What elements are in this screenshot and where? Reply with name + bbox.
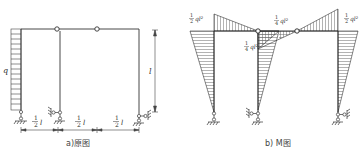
height-dimension bbox=[152, 30, 158, 112]
svg-text:ql²: ql² bbox=[280, 17, 289, 25]
svg-text:ql²: ql² bbox=[250, 43, 259, 51]
svg-text:2: 2 bbox=[345, 18, 348, 24]
frame-a bbox=[21, 27, 139, 114]
hinge-icon bbox=[256, 29, 260, 33]
moment-right-beam bbox=[297, 9, 338, 31]
svg-text:1: 1 bbox=[34, 114, 38, 121]
svg-text:ql²: ql² bbox=[350, 15, 359, 23]
svg-text:1: 1 bbox=[77, 114, 81, 121]
span-label-1: 1 2 l bbox=[32, 114, 42, 128]
label-right-top: 1 2 ql² bbox=[344, 12, 359, 24]
span-label-2: 1 2 l bbox=[75, 114, 85, 128]
label-middle-top: 1 4 ql² bbox=[274, 14, 289, 26]
caption-a: a)原图 bbox=[66, 139, 90, 148]
svg-text:2: 2 bbox=[115, 121, 119, 128]
support-left-b bbox=[207, 112, 220, 125]
height-label: l bbox=[149, 67, 152, 76]
svg-text:l: l bbox=[40, 119, 42, 127]
moment-left-beam bbox=[214, 14, 258, 31]
label-left-top: 1 2 ql² bbox=[189, 12, 204, 24]
moment-right-column bbox=[338, 31, 358, 112]
figure-b-moment: 1 2 ql² 1 4 ql² 1 4 ql² 1 2 ql² b) M图 bbox=[189, 9, 359, 148]
figure-a-original: q bbox=[3, 27, 158, 148]
svg-text:2: 2 bbox=[190, 18, 193, 24]
support-right bbox=[133, 110, 151, 126]
support-middle-b bbox=[246, 108, 263, 125]
svg-text:2: 2 bbox=[34, 121, 38, 128]
hinge-icon bbox=[95, 27, 99, 31]
load-label: q bbox=[3, 66, 8, 75]
hinge-icon bbox=[295, 29, 299, 33]
caption-b: b) M图 bbox=[265, 139, 291, 148]
svg-text:ql²: ql² bbox=[195, 15, 204, 23]
svg-text:4: 4 bbox=[275, 20, 278, 26]
svg-text:l: l bbox=[121, 119, 123, 127]
svg-text:1: 1 bbox=[115, 114, 119, 121]
svg-text:l: l bbox=[83, 119, 85, 127]
support-middle bbox=[48, 107, 65, 124]
hinge-icon bbox=[55, 27, 59, 31]
svg-text:4: 4 bbox=[245, 46, 248, 52]
support-right-b bbox=[332, 109, 350, 125]
distributed-load bbox=[11, 29, 21, 110]
label-middle-mid: 1 4 ql² bbox=[244, 40, 259, 52]
moment-left-column bbox=[190, 31, 214, 112]
svg-text:2: 2 bbox=[77, 121, 81, 128]
span-label-3: 1 2 l bbox=[113, 114, 123, 128]
support-left bbox=[14, 110, 27, 124]
